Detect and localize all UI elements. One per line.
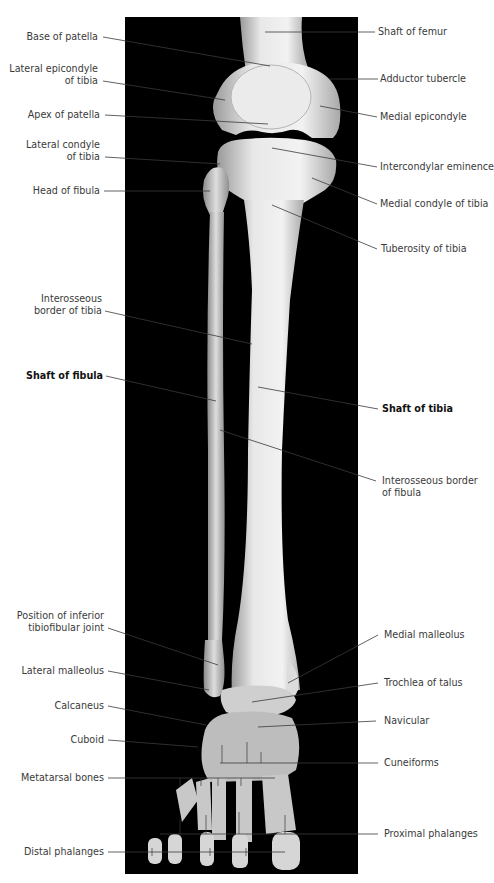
lateral-malleolus-bone [204,640,225,697]
label-position-of-inferior-tibiofibular-joint: Position of inferior tibiofibular joint [17,610,104,634]
label-calcaneus: Calcaneus [55,700,104,712]
label-line-2: of fibula [382,487,478,499]
label-intercondylar-eminence: Intercondylar eminence [380,161,494,173]
label-proximal-phalanges: Proximal phalanges [384,828,478,840]
label-apex-of-patella: Apex of patella [28,109,100,121]
label-adductor-tubercle: Adductor tubercle [380,73,466,85]
label-line-2: of tibia [9,75,98,87]
label-line-2: of tibia [26,151,100,163]
label-lateral-malleolus: Lateral malleolus [22,665,105,677]
label-lateral-condyle-of-tibia: Lateral condyle of tibia [26,139,100,163]
label-shaft-of-tibia: Shaft of tibia [382,403,453,415]
label-medial-epicondyle: Medial epicondyle [380,111,467,123]
label-metatarsal-bones: Metatarsal bones [21,772,104,784]
label-medial-condyle-of-tibia: Medial condyle of tibia [380,198,489,210]
label-line-1: Position of inferior [17,610,104,622]
label-trochlea-of-talus: Trochlea of talus [384,677,463,689]
fibula-shaft [207,212,224,660]
label-interosseous-border-of-tibia: Interosseous border of tibia [34,293,102,317]
label-base-of-patella: Base of patella [26,31,98,43]
label-line-1: Lateral epicondyle [9,63,98,75]
label-line-1: Interosseous border [382,475,478,487]
label-medial-malleolus: Medial malleolus [384,629,465,641]
label-line-2: border of tibia [34,305,102,317]
label-lateral-epicondyle-of-tibia: Lateral epicondyle of tibia [9,63,98,87]
patella [231,65,311,129]
tarsal-bones [201,712,299,782]
label-interosseous-border-of-fibula: Interosseous border of fibula [382,475,478,499]
label-cuboid: Cuboid [71,734,105,746]
label-line-2: tibiofibular joint [17,622,104,634]
label-line-1: Interosseous [34,293,102,305]
label-head-of-fibula: Head of fibula [33,185,100,197]
label-navicular: Navicular [384,715,429,727]
label-distal-phalanges: Distal phalanges [24,846,104,858]
label-tuberosity-of-tibia: Tuberosity of tibia [381,243,467,255]
label-shaft-of-femur: Shaft of femur [378,26,447,38]
label-shaft-of-fibula: Shaft of fibula [26,370,103,382]
label-cuneiforms: Cuneiforms [384,757,439,769]
label-line-1: Lateral condyle [26,139,100,151]
